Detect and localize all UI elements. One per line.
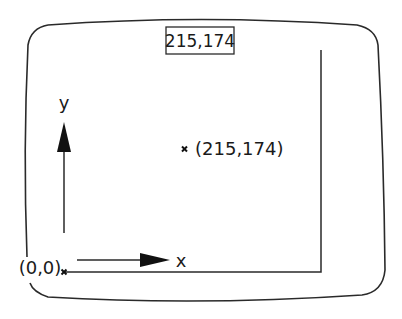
x-axis: x — [77, 250, 187, 271]
origin-point: (0,0) — [19, 257, 67, 278]
point-marker-icon — [182, 147, 187, 152]
x-axis-arrowhead-icon — [140, 253, 170, 267]
y-axis: y — [57, 92, 71, 233]
y-axis-label: y — [59, 92, 70, 113]
display-area-boundary — [64, 50, 321, 272]
sample-point: (215,174) — [182, 138, 283, 159]
coordinate-readout-box: 215,174 — [165, 27, 235, 54]
y-axis-arrowhead-icon — [57, 122, 71, 152]
x-axis-label: x — [176, 250, 187, 271]
origin-label: (0,0) — [19, 257, 62, 278]
screen-outline — [25, 20, 385, 302]
readout-label: 215,174 — [165, 31, 235, 51]
point-label: (215,174) — [195, 138, 283, 159]
diagram-canvas: 215,174 y x (0,0) — [0, 0, 402, 319]
